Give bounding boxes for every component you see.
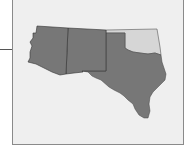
region-new-mexico (66, 28, 106, 74)
region-arizona (28, 26, 68, 75)
map-svg (0, 0, 188, 150)
